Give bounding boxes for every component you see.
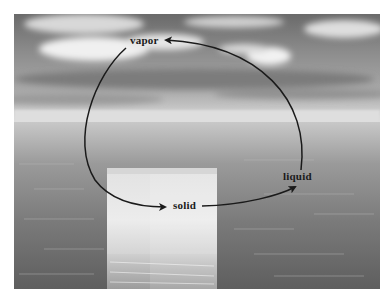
arrow-liquid-to-vapor (166, 40, 302, 170)
arrow-vapor-to-solid (85, 48, 165, 207)
label-liquid: liquid (283, 170, 312, 182)
phase-cycle-diagram (0, 0, 392, 301)
label-solid: solid (173, 199, 196, 211)
arrow-solid-to-liquid (202, 187, 295, 206)
label-vapor: vapor (130, 34, 159, 46)
